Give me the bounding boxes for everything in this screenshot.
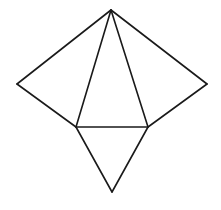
bottom-face <box>76 127 148 192</box>
faces-group <box>17 10 207 192</box>
tetrahedron-net-diagram <box>0 0 221 210</box>
